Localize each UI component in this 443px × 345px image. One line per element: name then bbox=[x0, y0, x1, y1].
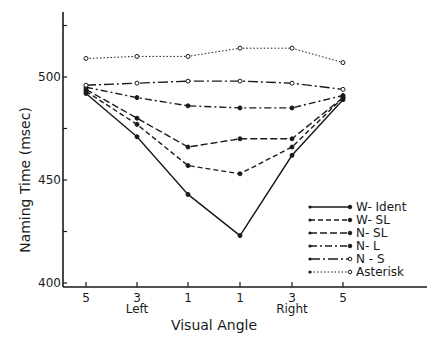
legend-marker bbox=[308, 218, 311, 221]
legend-marker bbox=[308, 257, 311, 260]
x-axis-title: Visual Angle bbox=[171, 317, 257, 333]
data-point bbox=[290, 137, 294, 141]
legend-marker bbox=[308, 231, 311, 234]
x-group-label: Right bbox=[276, 302, 308, 316]
data-point bbox=[186, 164, 190, 168]
x-tick-label: 1 bbox=[236, 291, 244, 305]
data-point bbox=[84, 56, 88, 60]
series-line bbox=[86, 87, 343, 108]
legend-marker bbox=[348, 270, 352, 274]
data-point bbox=[341, 94, 345, 98]
data-point bbox=[238, 234, 242, 238]
data-point bbox=[135, 54, 139, 58]
x-tick-label: 5 bbox=[339, 291, 347, 305]
data-point bbox=[290, 145, 294, 149]
data-point bbox=[135, 122, 139, 126]
series-lines bbox=[84, 46, 345, 237]
legend-label: N - S bbox=[356, 252, 385, 266]
data-point bbox=[238, 137, 242, 141]
x-tick-label: 1 bbox=[184, 291, 192, 305]
legend-label: W- Ident bbox=[356, 200, 407, 214]
data-point bbox=[341, 87, 345, 91]
x-tick-label: 5 bbox=[82, 291, 90, 305]
data-point bbox=[238, 106, 242, 110]
series-line bbox=[86, 48, 343, 62]
data-point bbox=[186, 145, 190, 149]
series-line bbox=[86, 89, 343, 147]
y-axis-title: Naming Time (msec) bbox=[17, 107, 33, 253]
series-line bbox=[86, 81, 343, 89]
data-point bbox=[135, 81, 139, 85]
legend-label: W- SL bbox=[356, 213, 390, 227]
series-line bbox=[86, 94, 343, 236]
legend-marker bbox=[348, 231, 352, 235]
y-tick-label: 500 bbox=[38, 70, 61, 84]
data-point bbox=[186, 192, 190, 196]
x-group-label: Left bbox=[126, 302, 149, 316]
data-point bbox=[290, 81, 294, 85]
line-chart: 400450500531135LeftRight W- IdentW- SLN-… bbox=[0, 0, 443, 345]
data-point bbox=[186, 104, 190, 108]
legend-marker bbox=[348, 257, 352, 261]
data-point bbox=[135, 96, 139, 100]
data-point bbox=[238, 172, 242, 176]
legend: W- IdentW- SLN- SLN- LN - SAsterisk bbox=[308, 200, 406, 279]
data-point bbox=[341, 61, 345, 65]
data-point bbox=[186, 79, 190, 83]
data-point bbox=[290, 46, 294, 50]
data-point bbox=[135, 116, 139, 120]
data-point bbox=[186, 54, 190, 58]
y-tick-label: 450 bbox=[38, 173, 61, 187]
series-line bbox=[86, 91, 343, 173]
data-point bbox=[84, 83, 88, 87]
legend-marker bbox=[308, 205, 311, 208]
data-point bbox=[135, 135, 139, 139]
data-point bbox=[238, 79, 242, 83]
data-point bbox=[290, 153, 294, 157]
data-point bbox=[238, 46, 242, 50]
legend-marker bbox=[348, 205, 352, 209]
legend-marker bbox=[308, 270, 311, 273]
legend-marker bbox=[348, 218, 352, 222]
legend-marker bbox=[308, 244, 311, 247]
legend-label: N- L bbox=[356, 239, 380, 253]
legend-label: Asterisk bbox=[356, 265, 404, 279]
legend-label: N- SL bbox=[356, 226, 388, 240]
y-tick-label: 400 bbox=[38, 276, 61, 290]
data-point bbox=[290, 106, 294, 110]
legend-marker bbox=[348, 244, 352, 248]
